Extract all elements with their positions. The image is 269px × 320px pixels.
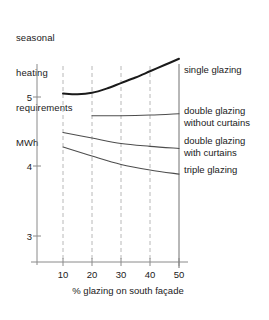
x-axis-title: % glazing on south façade xyxy=(48,285,208,296)
gridlines xyxy=(63,66,150,262)
x-tick-label-20: 20 xyxy=(82,269,102,280)
y-tick-label-5: 5 xyxy=(16,92,32,103)
series-label-double-with-line-1: double glazing xyxy=(184,135,245,147)
x-tick-label-50: 50 xyxy=(169,269,189,280)
series-line-double-glazing-without-curtains xyxy=(92,114,179,116)
series-label-triple-glazing: triple glazing xyxy=(184,164,237,176)
x-tick-label-40: 40 xyxy=(140,269,160,280)
x-tick-label-30: 30 xyxy=(111,269,131,280)
series-label-single-glazing-line-1: single glazing xyxy=(184,64,242,76)
series-label-single-glazing: single glazing xyxy=(184,64,242,76)
series-label-double-without-line-2: without curtains xyxy=(184,117,250,129)
y-tick-label-3: 3 xyxy=(16,231,32,242)
plot-area xyxy=(0,0,269,320)
axes xyxy=(31,64,188,268)
series-label-double-glazing-with-curtains: double glazing with curtains xyxy=(184,135,245,158)
series-label-double-with-line-2: with curtains xyxy=(184,147,245,159)
series-label-triple-glazing-line-1: triple glazing xyxy=(184,164,237,176)
x-tick-label-10: 10 xyxy=(53,269,73,280)
series-label-double-without-line-1: double glazing xyxy=(184,105,250,117)
chart-container: seasonal heating requirements MWh xyxy=(0,0,269,320)
series-label-double-glazing-without-curtains: double glazing without curtains xyxy=(184,105,250,128)
y-tick-label-4: 4 xyxy=(16,161,32,172)
